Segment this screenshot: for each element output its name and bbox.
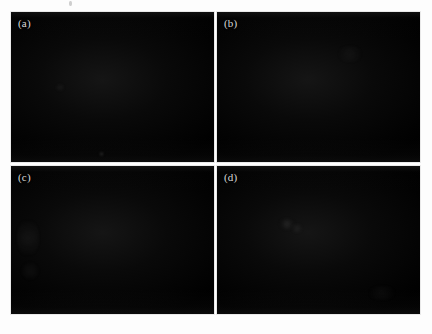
panel-b-faint-haze [337, 46, 363, 62]
panel-a-faint-haze [55, 84, 65, 91]
panel-a-bright-speck [99, 152, 104, 156]
panel-d-faint-haze [367, 286, 397, 300]
panel-c[interactable]: (c) [11, 166, 214, 314]
panel-grid: (a) (b) (c) (d) [11, 12, 420, 314]
panel-b[interactable]: (b) [217, 12, 420, 162]
panel-d-label: (d) [224, 171, 237, 184]
panel-a[interactable]: (a) [11, 12, 214, 162]
panel-d[interactable]: (d) [217, 166, 420, 314]
margin-dust-speck [69, 1, 72, 6]
panel-c-label: (c) [18, 171, 31, 184]
panel-d-smudge-tail [291, 224, 303, 233]
panel-a-label: (a) [18, 17, 31, 30]
figure-root: (a) (b) (c) (d) [0, 0, 432, 334]
panel-c-edge-blob-lower [21, 262, 39, 280]
panel-d-smudge-core [279, 218, 295, 230]
panel-c-edge-blob-upper [17, 218, 39, 258]
panel-b-label: (b) [224, 17, 237, 30]
